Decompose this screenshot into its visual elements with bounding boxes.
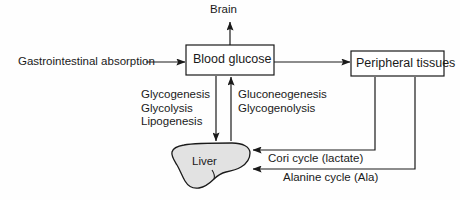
pathway-gluconeogenesis: Gluconeogenesis [238,88,327,102]
gastrointestinal-absorption-label: Gastrointestinal absorption [18,56,155,68]
liver-label: Liver [192,155,217,167]
blood-glucose-label: Blood glucose [193,53,272,66]
peripheral-tissues-label: Peripheral tissues [356,57,455,70]
pathway-glycolysis: Glycolysis [141,102,210,116]
brain-label: Brain [210,4,237,16]
metabolism-diagram: Brain Blood glucose Peripheral tissues G… [0,0,460,200]
cori-cycle-label: Cori cycle (lactate) [268,152,363,164]
pathway-lipogenesis: Lipogenesis [141,115,210,129]
pathway-glycogenolysis: Glycogenolysis [238,102,327,116]
from-liver-pathways: Gluconeogenesis Glycogenolysis [238,88,327,115]
alanine-cycle-label: Alanine cycle (Ala) [283,171,378,183]
pathway-glycogenesis: Glycogenesis [141,88,210,102]
to-liver-pathways: Glycogenesis Glycolysis Lipogenesis [141,88,210,129]
diagram-canvas [0,0,460,200]
